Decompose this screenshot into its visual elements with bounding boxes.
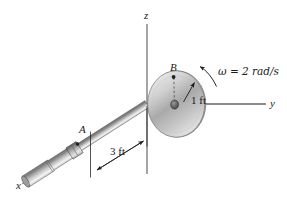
dimension-label-3ft: 3 ft [110, 146, 125, 157]
shaft-assembly [20, 98, 151, 188]
point-A-dot [76, 142, 80, 146]
length-dimension-3ft [91, 106, 148, 178]
point-B-dot [172, 75, 176, 79]
angular-velocity-arc [200, 67, 217, 87]
mechanics-diagram [0, 0, 287, 199]
omega-symbol: ω = 2 rad/s [218, 65, 279, 77]
dimension-label-1ft: 1 ft [191, 95, 206, 106]
point-label-B: B [170, 62, 177, 73]
axis-label-y: y [270, 98, 275, 109]
axis-label-z: z [144, 10, 148, 21]
axis-label-x: x [16, 180, 21, 191]
point-label-A: A [79, 124, 86, 135]
figure-canvas: z y x B A 1 ft 3 ft ω = 2 rad/s [0, 0, 287, 199]
angular-velocity-label: ω = 2 rad/s [218, 66, 279, 78]
